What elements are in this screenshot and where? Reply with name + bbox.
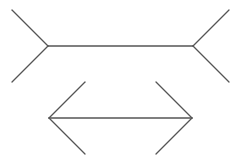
muller-lyer-diagram — [0, 0, 241, 162]
bottom-left-upper-fin — [49, 82, 85, 118]
outward-fins-figure — [12, 10, 229, 82]
bottom-right-upper-fin — [156, 82, 192, 118]
bottom-left-lower-fin — [49, 118, 85, 154]
bottom-right-lower-fin — [156, 118, 192, 154]
top-right-lower-fin — [193, 46, 229, 82]
top-left-upper-fin — [12, 10, 48, 46]
inward-arrowheads-figure — [49, 82, 192, 154]
top-left-lower-fin — [12, 46, 48, 82]
top-right-upper-fin — [193, 10, 229, 46]
